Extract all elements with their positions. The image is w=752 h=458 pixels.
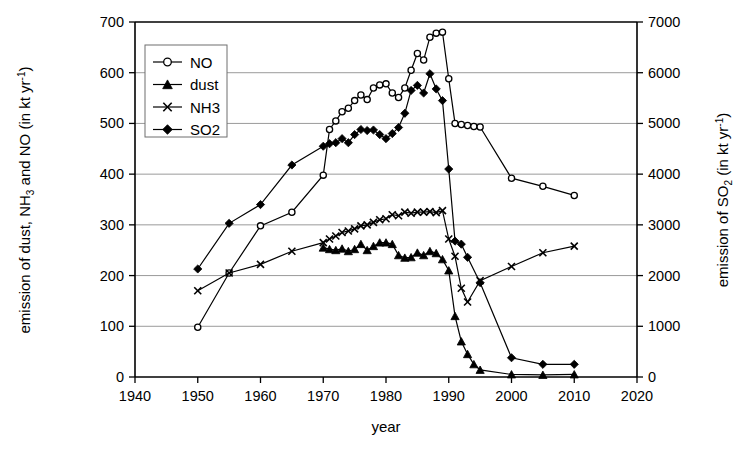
x-tick-label: 1980: [370, 388, 402, 404]
legend-label: SO2: [190, 121, 220, 138]
y-tick-label-right: 4000: [648, 166, 680, 182]
data-point-marker: [383, 81, 389, 87]
data-point-marker: [477, 124, 483, 130]
x-tick-label: 1960: [244, 388, 276, 404]
data-point-marker: [364, 96, 370, 102]
y-tick-label-right: 5000: [648, 115, 680, 131]
y-tick-label-left: 600: [100, 65, 124, 81]
data-point-marker: [358, 92, 364, 98]
x-tick-label: 1950: [182, 388, 214, 404]
chart-legend: NOdustNH3SO2: [145, 45, 227, 138]
x-tick-label: 1940: [119, 388, 151, 404]
data-point-marker: [508, 175, 514, 181]
y-tick-label-right: 2000: [648, 268, 680, 284]
chart-figure: 194019501960197019801990200020102020 010…: [0, 0, 752, 458]
y-tick-label-left: 300: [100, 217, 124, 233]
data-point-marker: [446, 76, 452, 82]
data-point-marker: [458, 121, 464, 127]
legend-label: NO: [190, 54, 213, 71]
y-tick-label-right: 1000: [648, 318, 680, 334]
x-axis-title: year: [371, 418, 400, 435]
data-point-marker: [339, 109, 345, 115]
x-tick-label: 2020: [621, 388, 653, 404]
y-tick-label-left: 700: [100, 14, 124, 30]
y-tick-label-left: 400: [100, 166, 124, 182]
legend-label: NH3: [190, 99, 220, 116]
y-tick-label-left: 0: [116, 369, 124, 385]
data-point-marker: [370, 85, 376, 91]
data-point-marker: [471, 123, 477, 129]
data-point-marker: [414, 50, 420, 56]
data-point-marker: [257, 223, 263, 229]
y-tick-label-right: 3000: [648, 217, 680, 233]
data-point-marker: [439, 29, 445, 35]
data-point-marker: [421, 57, 427, 63]
data-point-marker: [427, 34, 433, 40]
y-tick-label-left: 200: [100, 268, 124, 284]
data-point-marker: [345, 105, 351, 111]
x-tick-label: 1970: [307, 388, 339, 404]
data-point-marker: [164, 58, 172, 66]
data-point-marker: [464, 122, 470, 128]
data-point-marker: [408, 67, 414, 73]
y-tick-label-right: 7000: [648, 14, 680, 30]
data-point-marker: [289, 209, 295, 215]
data-point-marker: [540, 183, 546, 189]
x-tick-label: 2010: [558, 388, 590, 404]
emissions-line-chart: 194019501960197019801990200020102020 010…: [0, 0, 752, 458]
legend-label: dust: [190, 76, 219, 93]
data-point-marker: [433, 30, 439, 36]
y-tick-label-right: 0: [648, 369, 656, 385]
data-point-marker: [320, 172, 326, 178]
data-point-marker: [333, 118, 339, 124]
y-tick-label-left: 100: [100, 318, 124, 334]
data-point-marker: [377, 82, 383, 88]
x-tick-label: 1990: [433, 388, 465, 404]
x-tick-label: 2000: [495, 388, 527, 404]
y-tick-label-left: 500: [100, 115, 124, 131]
data-point-marker: [452, 120, 458, 126]
data-point-marker: [195, 324, 201, 330]
data-point-marker: [389, 90, 395, 96]
data-point-marker: [571, 192, 577, 198]
data-point-marker: [352, 98, 358, 104]
data-point-marker: [395, 94, 401, 100]
data-point-marker: [326, 126, 332, 132]
y-tick-label-right: 6000: [648, 65, 680, 81]
